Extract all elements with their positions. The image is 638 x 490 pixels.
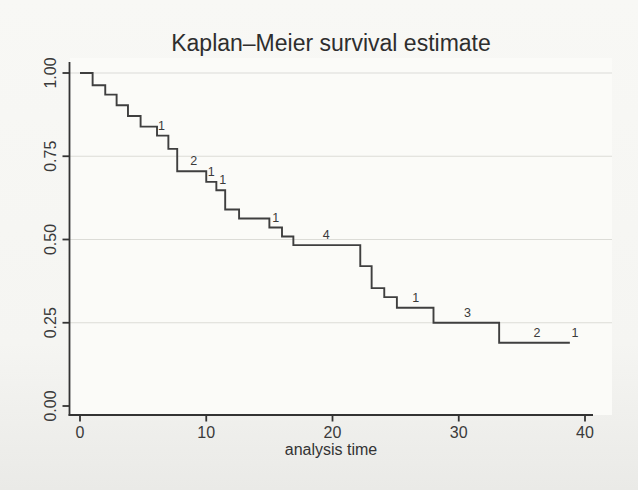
censor-count-label: 1 <box>571 326 578 340</box>
x-tick-label: 40 <box>576 424 594 441</box>
x-axis-title: analysis time <box>24 441 638 458</box>
censor-count-label: 1 <box>219 173 226 187</box>
censor-count-label: 4 <box>323 228 330 242</box>
censor-count-label: 3 <box>464 306 471 320</box>
x-tick-label: 20 <box>324 424 342 441</box>
y-tick-label: 0.00 <box>42 390 59 421</box>
x-tick-label: 30 <box>450 424 468 441</box>
plot-area <box>70 58 612 415</box>
censor-count-label: 2 <box>190 154 197 168</box>
km-chart-canvas: 0.000.250.500.751.000102030401211141321 <box>0 0 638 490</box>
y-tick-label: 1.00 <box>42 57 59 88</box>
chart-title: Kaplan–Meier survival estimate <box>24 31 638 56</box>
censor-count-label: 1 <box>412 291 419 305</box>
censor-count-label: 1 <box>208 165 215 179</box>
y-tick-label: 0.75 <box>42 141 59 172</box>
y-tick-label: 0.25 <box>42 307 59 338</box>
km-survival-figure: 0.000.250.500.751.000102030401211141321 … <box>0 0 638 490</box>
x-tick-label: 10 <box>197 424 215 441</box>
y-tick-label: 0.50 <box>42 224 59 255</box>
censor-count-label: 1 <box>272 211 279 225</box>
x-tick-label: 0 <box>76 424 85 441</box>
censor-count-label: 1 <box>158 119 165 133</box>
censor-count-label: 2 <box>534 326 541 340</box>
